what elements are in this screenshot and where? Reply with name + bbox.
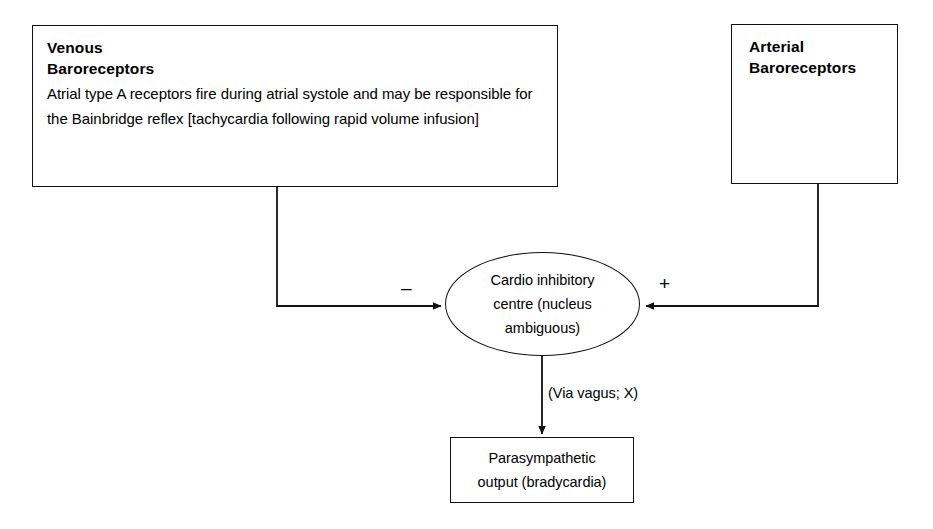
edge-venous-to-centre [277, 187, 441, 306]
diagram-canvas: Venous Baroreceptors Atrial type A recep… [0, 0, 933, 529]
cardio-inhibitory-centre-ellipse: Cardio inhibitory centre (nucleus ambigu… [445, 252, 640, 356]
edge-arterial-to-centre [646, 184, 818, 306]
venous-baroreceptors-title: Venous Baroreceptors [47, 37, 543, 79]
via-vagus-label: (Via vagus; X) [548, 383, 638, 403]
arterial-baroreceptors-box: Arterial Baroreceptors [731, 24, 898, 184]
minus-sign-label: – [401, 278, 412, 297]
parasympathetic-output-box: Parasympathetic output (bradycardia) [450, 437, 634, 503]
cardio-inhibitory-centre-label: Cardio inhibitory centre (nucleus ambigu… [491, 268, 595, 340]
venous-baroreceptors-body: Atrial type A receptors fire during atri… [47, 81, 543, 131]
plus-sign-label: + [659, 274, 670, 293]
parasympathetic-output-line-2: output (bradycardia) [478, 470, 607, 494]
parasympathetic-output-line-1: Parasympathetic [488, 446, 595, 470]
arterial-baroreceptors-title: Arterial Baroreceptors [749, 36, 897, 78]
venous-baroreceptors-box: Venous Baroreceptors Atrial type A recep… [32, 25, 558, 187]
